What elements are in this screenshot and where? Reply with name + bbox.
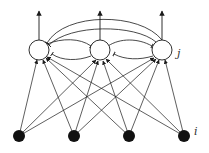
arc-1-to-2 [47,40,91,46]
arc-3-to-2 [114,54,153,59]
arc-2-to-3 [108,40,152,46]
output-node-3 [152,40,172,60]
edge-i4-o3 [165,60,184,136]
edge-i2-o1 [43,60,74,136]
input-layer-label: i [194,125,198,138]
input-node-3 [123,130,135,142]
arc-2-to-1 [52,54,91,60]
output-layer-label: j [174,47,181,60]
feedforward-connections [19,57,184,136]
network-diagram: j i [0,0,209,153]
arc-3-to-1-outer [47,19,162,43]
input-node-1 [13,130,25,142]
output-node-1 [29,40,49,60]
input-layer [13,130,190,142]
edge-i3-o3 [129,60,159,136]
output-arrows [39,11,162,40]
input-node-4 [178,130,190,142]
input-node-2 [68,130,80,142]
edge-i1-o1 [19,60,37,136]
edge-i3-o2 [103,61,129,136]
output-node-2 [90,40,110,60]
